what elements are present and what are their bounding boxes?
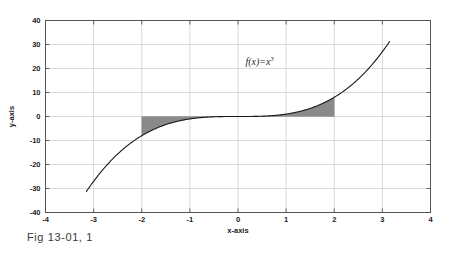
figure-caption: Fig 13-01, 1 — [27, 231, 93, 243]
x-tick-label: -2 — [138, 215, 145, 224]
y-tick-label: -10 — [30, 136, 41, 145]
y-axis-title: y-axis — [7, 106, 16, 127]
x-tick-label: 2 — [332, 215, 336, 224]
x-axis-title: x-axis — [227, 226, 248, 235]
x-tick-label: 0 — [236, 215, 240, 224]
svg-text:x-axis: x-axis — [227, 226, 248, 235]
x-tick-label: 1 — [284, 215, 288, 224]
y-tick-label: -40 — [30, 208, 41, 217]
chart-canvas: -4-3-2-101234-40-30-20-10010203040 x-axi… — [0, 0, 453, 259]
y-tick-label: -20 — [30, 160, 41, 169]
svg-text:f(x)=x3: f(x)=x3 — [245, 55, 274, 68]
y-tick-label: 0 — [36, 112, 40, 121]
y-tick-label: 40 — [32, 16, 40, 25]
x-tick-label: 4 — [428, 215, 433, 224]
y-tick-label: -30 — [30, 184, 41, 193]
svg-text:y-axis: y-axis — [7, 106, 16, 127]
y-tick-label: 10 — [32, 88, 40, 97]
y-tick-label: 30 — [32, 40, 40, 49]
x-tick-label: -4 — [42, 215, 49, 224]
y-tick-label: 20 — [32, 64, 40, 73]
function-annotation: f(x)=x3 — [245, 55, 274, 68]
x-tick-label: 3 — [380, 215, 384, 224]
figure-container: -4-3-2-101234-40-30-20-10010203040 x-axi… — [0, 0, 453, 259]
x-tick-label: -3 — [90, 215, 97, 224]
x-tick-label: -1 — [187, 215, 194, 224]
